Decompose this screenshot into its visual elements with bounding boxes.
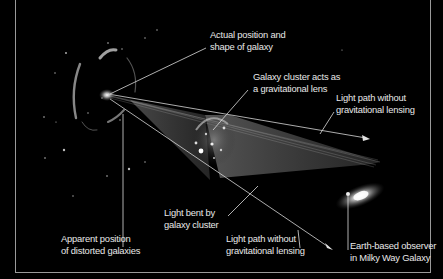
observer-point [346, 192, 350, 196]
label-actual-position: Actual position and shape of galaxy [210, 29, 285, 52]
arrow-head-upper [362, 135, 370, 141]
galaxy-cluster [192, 114, 236, 166]
arrow-head-lower [325, 243, 333, 250]
distant-galaxy [99, 89, 115, 101]
label-light-bent: Light bent by galaxy cluster [164, 207, 219, 230]
milky-way-galaxy [332, 177, 388, 215]
label-path-without-lower: Light path without gravitational lensing [226, 233, 305, 256]
label-cluster-lens: Galaxy cluster acts as a gravitational l… [253, 71, 340, 94]
label-apparent-position: Apparent position of distorted galaxies [61, 233, 140, 256]
label-observer: Earth-based observer in Milky Way Galaxy [350, 240, 436, 263]
label-path-without-upper: Light path without gravitational lensing [336, 92, 415, 115]
